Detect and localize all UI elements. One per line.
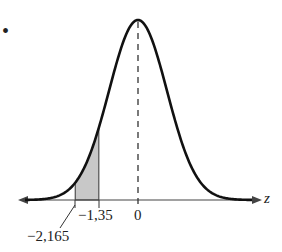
axis-arrow-right — [252, 196, 262, 204]
tick-label-neg2165: −2,165 — [27, 228, 69, 245]
leader-line — [60, 205, 75, 228]
tick-label-zero: 0 — [134, 207, 142, 224]
tick-label-neg135: −1,35 — [78, 207, 113, 224]
axis-label-z: z — [264, 190, 270, 207]
